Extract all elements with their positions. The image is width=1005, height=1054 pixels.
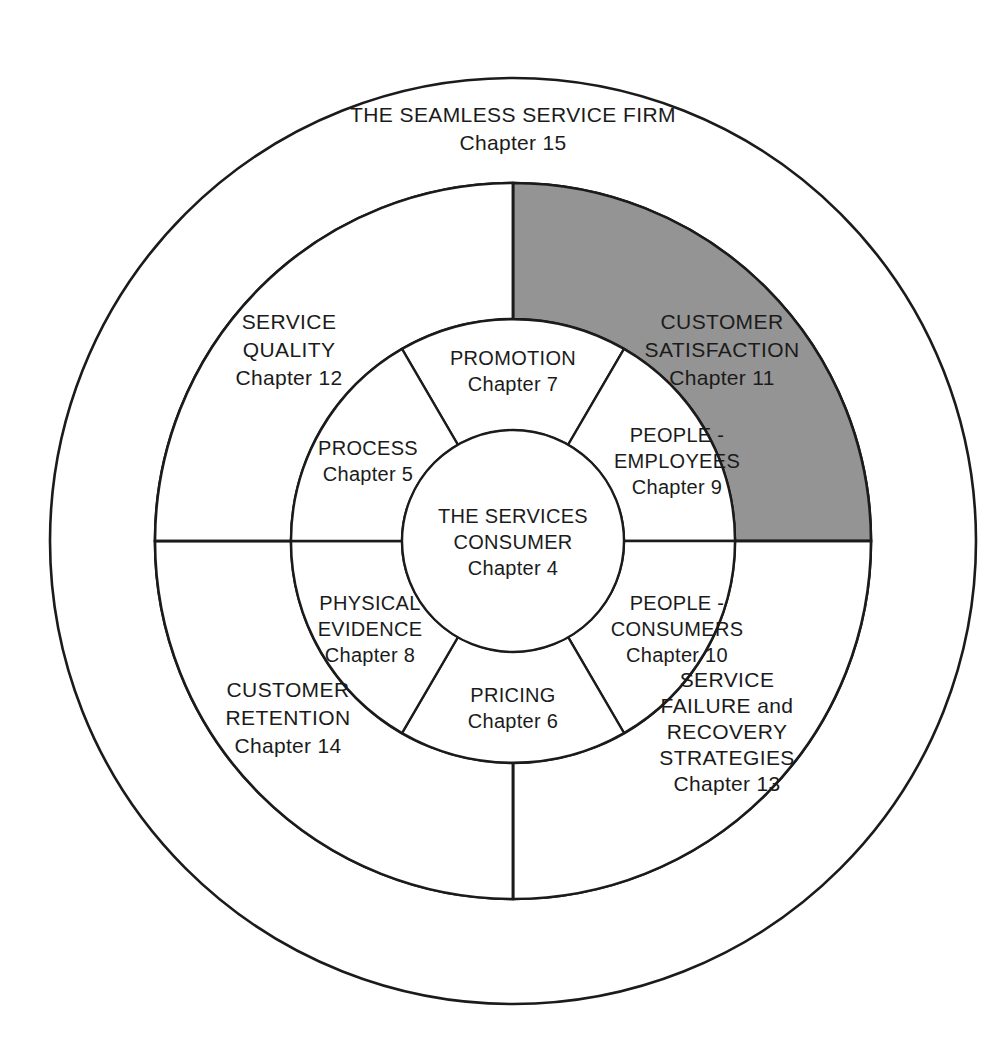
physical-evidence-line-2: EVIDENCE [318,618,423,640]
services-wheel-diagram: THE SEAMLESS SERVICE FIRM Chapter 15 SER… [0,0,1005,1054]
core-chapter: Chapter 4 [468,557,559,579]
service-quality-line-2: QUALITY [243,338,336,361]
customer-satisfaction-line-2: SATISFACTION [645,338,800,361]
physical-evidence-line-1: PHYSICAL [319,592,420,614]
process-line-1: PROCESS [318,437,418,459]
customer-retention-line-1: CUSTOMER [227,678,350,701]
people-employees-chapter: Chapter 9 [632,476,723,498]
outer-ring-chapter: Chapter 15 [460,131,567,154]
physical-evidence-chapter: Chapter 8 [325,644,416,666]
customer-satisfaction-chapter: Chapter 11 [669,366,774,389]
service-failure-line-4: STRATEGIES [659,746,794,769]
label-physical-evidence: PHYSICAL EVIDENCE Chapter 8 [318,592,423,666]
pricing-line-1: PRICING [470,684,555,706]
service-failure-chapter: Chapter 13 [674,772,781,795]
customer-retention-line-2: RETENTION [226,706,351,729]
customer-retention-chapter: Chapter 14 [235,734,342,757]
promotion-chapter: Chapter 7 [468,373,559,395]
service-failure-line-1: SERVICE [680,668,775,691]
people-employees-line-1: PEOPLE - [630,424,725,446]
promotion-line-1: PROMOTION [450,347,576,369]
service-failure-line-3: RECOVERY [667,720,788,743]
core-line-2: CONSUMER [453,531,572,553]
people-employees-line-2: EMPLOYEES [614,450,740,472]
outer-ring-title-line-1: THE SEAMLESS SERVICE FIRM [350,103,676,126]
people-consumers-chapter: Chapter 10 [626,644,728,666]
core-line-1: THE SERVICES [438,505,588,527]
people-consumers-line-1: PEOPLE - [630,592,725,614]
label-people-employees: PEOPLE - EMPLOYEES Chapter 9 [614,424,740,498]
service-quality-chapter: Chapter 12 [236,366,343,389]
label-service-quality: SERVICE QUALITY Chapter 12 [236,310,343,389]
process-chapter: Chapter 5 [323,463,414,485]
pricing-chapter: Chapter 6 [468,710,559,732]
label-customer-retention: CUSTOMER RETENTION Chapter 14 [226,678,351,757]
diagram-root: THE SEAMLESS SERVICE FIRM Chapter 15 SER… [0,0,1005,1054]
label-people-consumers: PEOPLE - CONSUMERS Chapter 10 [611,592,744,666]
people-consumers-line-2: CONSUMERS [611,618,744,640]
service-quality-line-1: SERVICE [242,310,337,333]
service-failure-line-2: FAILURE and [661,694,794,717]
customer-satisfaction-line-1: CUSTOMER [661,310,784,333]
